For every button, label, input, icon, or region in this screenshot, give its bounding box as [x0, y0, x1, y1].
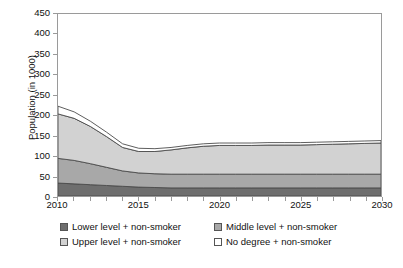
y-axis-tick-label: 350 — [20, 49, 50, 59]
x-axis-tick-label: 2030 — [362, 199, 402, 210]
legend-row: Upper level + non-smoker No degree + non… — [0, 236, 403, 251]
x-axis-tick-mark — [236, 197, 237, 201]
legend-item-upper-level[interactable]: Upper level + non-smoker — [60, 236, 214, 247]
legend-item-label: No degree + non-smoker — [226, 236, 331, 247]
legend-row: Lower level + non-smoker Middle level + … — [0, 221, 403, 236]
legend-item-label: Middle level + non-smoker — [226, 221, 337, 232]
legend-item-lower-level[interactable]: Lower level + non-smoker — [60, 221, 214, 232]
legend-item-no-degree[interactable]: No degree + non-smoker — [214, 236, 394, 247]
y-axis-tick-label: 150 — [20, 131, 50, 141]
chart-legend: Lower level + non-smoker Middle level + … — [0, 221, 403, 251]
legend-item-middle-level[interactable]: Middle level + non-smoker — [214, 221, 394, 232]
x-axis-tick-label: 2025 — [281, 199, 321, 210]
x-axis-tick-mark — [106, 197, 107, 201]
legend-swatch-icon — [60, 238, 68, 246]
x-axis-tick-mark — [268, 197, 269, 201]
legend-item-label: Lower level + non-smoker — [72, 221, 181, 232]
x-axis-tick-mark — [155, 197, 156, 201]
x-axis-tick-mark — [73, 197, 74, 201]
stacked-area-series — [58, 14, 381, 196]
y-axis-tick-label: 200 — [20, 110, 50, 120]
x-axis-tick-mark — [333, 197, 334, 201]
x-axis-tick-mark — [317, 197, 318, 201]
y-axis-tick-label: 400 — [20, 28, 50, 38]
y-axis-tick-label: 250 — [20, 90, 50, 100]
y-axis-tick-label: 450 — [20, 8, 50, 18]
plot-area — [57, 13, 382, 197]
y-axis-tick-label: 100 — [20, 151, 50, 161]
legend-swatch-icon — [214, 223, 222, 231]
x-axis-tick-label: 2010 — [37, 199, 77, 210]
y-axis-tick-label: 300 — [20, 69, 50, 79]
legend-swatch-icon — [60, 223, 68, 231]
x-axis-tick-mark — [187, 197, 188, 201]
chart-figure: Population (in 1000) 0501001502002503003… — [0, 0, 403, 268]
y-axis-tick-label: 50 — [20, 172, 50, 182]
x-axis-tick-mark — [171, 197, 172, 201]
legend-swatch-icon — [214, 238, 222, 246]
x-axis-tick-label: 2020 — [200, 199, 240, 210]
x-axis-tick-mark — [90, 197, 91, 201]
x-axis-tick-mark — [252, 197, 253, 201]
x-axis-tick-mark — [350, 197, 351, 201]
x-axis-tick-label: 2015 — [118, 199, 158, 210]
legend-item-label: Upper level + non-smoker — [72, 236, 181, 247]
